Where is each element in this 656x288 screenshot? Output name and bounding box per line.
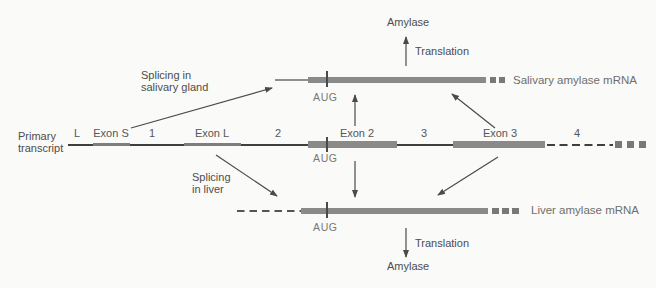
arrows-overlay bbox=[0, 0, 656, 288]
exon3-to-liver-arrow bbox=[438, 157, 498, 195]
splicing-liver-arrow bbox=[216, 155, 277, 196]
amylase-alternative-splicing-diagram: Amylase Translation Salivary amylase mRN… bbox=[0, 0, 656, 288]
splicing-salivary-arrow bbox=[131, 88, 272, 128]
exon3-to-salivary-arrow bbox=[452, 94, 495, 128]
